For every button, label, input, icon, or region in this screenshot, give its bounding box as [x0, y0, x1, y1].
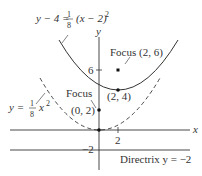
directrix-label: Directrix y = −2	[120, 153, 191, 165]
dashed-parabola-equation: y = 1 8 x 2	[8, 99, 50, 119]
dashed-eq-exp: 2	[46, 99, 50, 108]
x-axis-label: x	[192, 123, 198, 135]
dashed-eq-frac-num: 1	[30, 99, 34, 108]
dashed-eq-left: y =	[8, 101, 24, 113]
focus-0-2-word: Focus	[66, 87, 92, 99]
focus-2-6-leader	[125, 57, 130, 64]
y-tick-label-neg2: −2	[82, 143, 94, 155]
y-tick-label-6: 6	[88, 64, 94, 76]
focus-0-2-point	[97, 108, 101, 112]
dashed-eq-right: x	[38, 101, 44, 113]
solid-eq-leader	[62, 35, 68, 43]
dashed-eq-frac-den: 8	[30, 110, 34, 119]
focus-0-2-coords: (0, 2)	[71, 104, 95, 117]
x-tick-label-2: 2	[115, 134, 121, 146]
vertex-origin-point	[97, 128, 101, 132]
solid-eq-frac-den: 8	[67, 21, 71, 30]
parabola-diagram: x y 2 6 −2 Directrix y = −2 Focus (2, 6)…	[0, 0, 202, 176]
focus-2-6-point	[117, 69, 120, 72]
focus-2-6-label: Focus (2, 6)	[110, 46, 163, 59]
vertex-2-4-label: (2, 4)	[107, 90, 131, 103]
y-axis-label: y	[95, 25, 101, 37]
solid-eq-left: y − 4 =	[35, 12, 69, 24]
solid-eq-exp: 2	[105, 10, 109, 19]
solid-eq-frac-num: 1	[67, 10, 71, 19]
solid-eq-right: (x − 2)	[76, 12, 107, 25]
